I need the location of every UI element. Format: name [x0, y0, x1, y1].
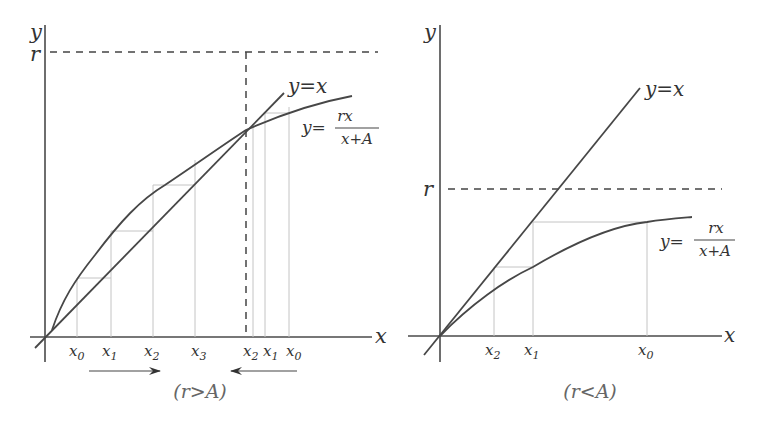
svg-text:x2: x2 — [243, 342, 258, 363]
caption-left: (r>A) — [173, 380, 227, 402]
right-panel: y r x y=x y= rx x+A x2 x1 x0 (r<A) — [408, 20, 735, 402]
curve-label: y= rx x+A — [301, 107, 379, 148]
svg-text:x1: x1 — [102, 342, 117, 363]
svg-text:x1: x1 — [524, 341, 539, 362]
left-panel: y r x y=x y= rx — [29, 20, 387, 402]
x-axis-label: x — [375, 324, 387, 348]
cobweb-right — [253, 107, 289, 337]
x-axis-label: x — [724, 323, 735, 347]
tick-labels-left: x0 x1 x2 x3 x2 x1 x0 — [69, 342, 301, 363]
caption-right: (r<A) — [563, 380, 617, 402]
identity-label: y=x — [644, 77, 684, 101]
cobweb-left — [77, 160, 195, 337]
svg-text:x+A: x+A — [699, 242, 731, 260]
y-axis-label: y — [29, 20, 43, 44]
identity-line — [35, 93, 284, 348]
rational-curve — [440, 217, 692, 336]
cobweb-figure: y r x y=x y= rx — [0, 0, 760, 431]
tick-labels: x2 x1 x0 — [485, 341, 653, 362]
svg-text:rx: rx — [708, 219, 724, 237]
r-label: r — [423, 177, 435, 201]
y-axis-label: y — [423, 20, 437, 44]
svg-text:x0: x0 — [69, 342, 84, 363]
svg-text:x0: x0 — [638, 341, 653, 362]
svg-text:rx: rx — [337, 107, 353, 125]
identity-label: y=x — [287, 74, 327, 98]
r-label: r — [30, 42, 42, 66]
svg-text:x3: x3 — [191, 342, 206, 363]
svg-text:x0: x0 — [286, 342, 301, 363]
svg-text:x2: x2 — [485, 341, 500, 362]
svg-text:x2: x2 — [144, 342, 159, 363]
svg-text:x1: x1 — [263, 342, 278, 363]
svg-text:y=: y= — [659, 231, 684, 251]
curve-label: y= rx x+A — [659, 219, 735, 260]
svg-text:y=: y= — [301, 117, 326, 137]
svg-text:x+A: x+A — [341, 130, 373, 148]
